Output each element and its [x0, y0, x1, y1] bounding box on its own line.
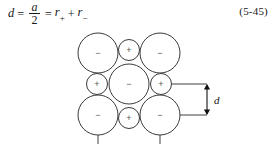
- equation-equals-first: =: [17, 8, 24, 20]
- cation-mid-left-sign: +: [94, 79, 99, 89]
- term-r-plus-subscript: +: [60, 13, 65, 23]
- ion-cation-top-center: +: [119, 40, 140, 61]
- term-r-minus: r−: [78, 6, 88, 22]
- equation-expression: d = a 2 = r+ + r−: [8, 1, 88, 26]
- ion-anion-bottom-right: −: [140, 95, 180, 135]
- fraction-a-over-2: a 2: [29, 1, 40, 26]
- dimension-arrowhead-down: [204, 110, 210, 116]
- equation-block: d = a 2 = r+ + r− (5-45): [0, 0, 276, 26]
- ion-cation-bottom-center: +: [119, 108, 140, 129]
- equation-lhs-variable: d: [8, 7, 14, 20]
- equation-equals-second: =: [45, 8, 52, 20]
- ion-anion-mid-center: −: [109, 64, 149, 104]
- term-r-plus-base: r: [55, 5, 60, 19]
- ion-anion-top-right: −: [140, 33, 180, 73]
- term-r-plus: r+: [55, 6, 65, 22]
- cation-bottom-center-sign: +: [126, 113, 131, 123]
- anion-mid-center-sign: −: [126, 79, 131, 89]
- anion-top-left-sign: −: [95, 48, 100, 58]
- bottom-tick-marks: [98, 135, 160, 144]
- term-r-minus-subscript: −: [82, 13, 87, 23]
- anion-top-right-sign: −: [157, 48, 162, 58]
- cation-top-center-sign: +: [126, 45, 131, 55]
- ionic-lattice-diagram: d −−−−−++++: [0, 24, 276, 144]
- equation-plus-operator: +: [68, 8, 75, 20]
- figure-container: d = a 2 = r+ + r− (5-45) d −−−−−++++: [0, 0, 276, 144]
- ion-anion-bottom-left: −: [78, 95, 118, 135]
- equation-number: (5-45): [239, 5, 268, 17]
- ion-cation-mid-right: +: [151, 74, 172, 95]
- dimension-label-d: d: [214, 94, 220, 106]
- dimension-arrowhead-up: [204, 84, 210, 90]
- anion-bottom-right-sign: −: [157, 110, 162, 120]
- ion-cation-mid-left: +: [87, 74, 108, 95]
- fraction-numerator: a: [30, 1, 40, 13]
- ion-group: −−−−−++++: [78, 33, 180, 135]
- ion-anion-top-left: −: [78, 33, 118, 73]
- lattice-svg: d −−−−−++++: [0, 24, 276, 144]
- cation-mid-right-sign: +: [158, 79, 163, 89]
- anion-bottom-left-sign: −: [95, 110, 100, 120]
